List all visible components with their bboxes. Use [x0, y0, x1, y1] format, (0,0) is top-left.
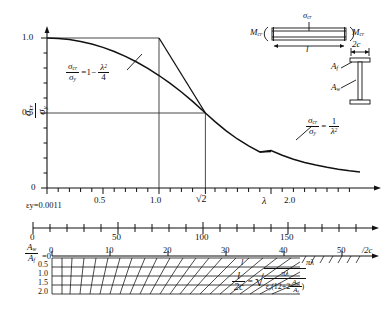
section-web-label: Aw [331, 83, 340, 93]
nomo-upper-tick-100: 100 [195, 233, 209, 242]
beam-moment-right-label: Mcr [352, 28, 364, 38]
nomo-lower-tick-30: 30 [221, 246, 230, 255]
nomo-upper-tick-50: 50 [112, 233, 121, 242]
nomogram-row-axis-title: Aw Af [25, 243, 38, 264]
nomogram-formula: l 2c = √ πλ εy(12+2AwAf) [232, 268, 306, 295]
x-tick-label-sqrt2: √2 [196, 194, 207, 204]
x-tick-label-2_0: 2.0 [284, 196, 295, 205]
nomogram-lower-axis [52, 251, 379, 258]
figure-root: σcr σy 1.0 0.5 0 0.5 1.0 √2 λ 2.0 εy=0.0… [0, 0, 390, 319]
nomo-lower-tick-20: 20 [163, 246, 172, 255]
epsilon-y-note: εy=0.0011 [26, 201, 62, 210]
y-tick-label-1: 1.0 [22, 33, 33, 42]
x-tick-label-1_0: 1.0 [150, 196, 161, 205]
nomo-lower-tick-40: 40 [279, 246, 288, 255]
inset-beam-drawing [264, 22, 353, 48]
nomogram-row-value-0_5: 0.5 [38, 261, 48, 269]
x-axis-symbol: λ [262, 196, 266, 206]
y-tick-label-0: 0 [31, 183, 36, 192]
beam-length-label: l [306, 45, 309, 54]
beam-moment-left-label: Mcr [250, 28, 262, 38]
nomo-lower-axis-label: /2c [362, 246, 372, 255]
nomogram-row-value-2_0: 2.0 [38, 288, 48, 296]
nomogram-pi-lambda-marker: πλ [306, 258, 314, 267]
section-flange-label: Af [331, 62, 338, 72]
hyperbola-curve-tail [260, 151, 360, 173]
inset-i-section-drawing [341, 48, 370, 104]
hyperbola-curve [205, 113, 271, 152]
nomo-upper-tick-150: 150 [280, 233, 294, 242]
nomogram-l-marker: l [241, 258, 243, 267]
main-chart-axes [45, 26, 381, 190]
x-tick-label-0_5: 0.5 [94, 196, 105, 205]
plateau-drop-line [159, 38, 205, 113]
nomogram-row-value-1_0: 1.0 [38, 270, 48, 278]
nomo-lower-tick-10: 10 [105, 246, 114, 255]
figure-canvas [0, 0, 390, 319]
beam-depth-label: 2c [352, 40, 361, 49]
y-tick-label-0_5: 0.5 [22, 108, 33, 117]
beam-stress-label: σcr [303, 11, 312, 21]
nomo-lower-tick-50: 50 [337, 246, 346, 255]
annotation-leaders [127, 54, 312, 140]
nomo-upper-tick-0: 0 [30, 233, 35, 242]
hyperbola-equation-label: σcrσy = 1λ2 [306, 116, 339, 137]
nomogram-row-value-1_5: 1.5 [38, 279, 48, 287]
parabola-equation-label: σcrσy =1− λ24 [66, 62, 109, 83]
